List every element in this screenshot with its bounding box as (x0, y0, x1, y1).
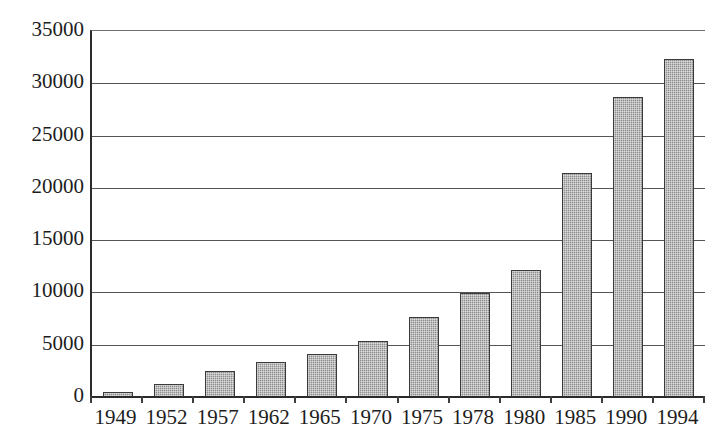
x-tick (294, 396, 296, 403)
y-tick-label: 25000 (0, 124, 84, 145)
y-tick-label: 30000 (0, 71, 84, 92)
x-tick-label: 1949 (90, 404, 141, 430)
bar (511, 270, 541, 397)
y-tick-label: 20000 (0, 176, 84, 197)
y-axis: 05000100001500020000250003000035000 (0, 0, 84, 444)
x-tick-label: 1965 (294, 404, 345, 430)
x-tick-label: 1970 (345, 404, 396, 430)
x-tick-label: 1957 (192, 404, 243, 430)
x-tick (141, 396, 143, 403)
x-tick (703, 396, 705, 403)
x-tick-label: 1994 (652, 404, 703, 430)
bar-chart: 05000100001500020000250003000035000 1949… (0, 0, 728, 444)
x-axis: 1949195219571962196519701975197819801985… (90, 404, 704, 444)
bar (409, 317, 439, 397)
y-tick-label: 35000 (0, 19, 84, 40)
bar (562, 173, 592, 397)
x-tick-label: 1985 (550, 404, 601, 430)
x-tick (243, 396, 245, 403)
bar (205, 371, 235, 397)
bar (613, 97, 643, 397)
bar (256, 362, 286, 397)
y-tick-label: 5000 (0, 333, 84, 354)
bar (664, 59, 694, 397)
x-tick-label: 1962 (243, 404, 294, 430)
x-tick-label: 1990 (601, 404, 652, 430)
x-tick (448, 396, 450, 403)
bars-layer (92, 31, 705, 397)
x-tick (397, 396, 399, 403)
x-tick (601, 396, 603, 403)
x-tick (499, 396, 501, 403)
x-axis-ticks (90, 396, 704, 404)
y-tick-label: 0 (0, 385, 84, 406)
x-tick (90, 396, 92, 403)
bar (307, 354, 337, 397)
y-tick-label: 15000 (0, 228, 84, 249)
x-tick-label: 1980 (499, 404, 550, 430)
x-tick-label: 1978 (448, 404, 499, 430)
x-tick-label: 1975 (397, 404, 448, 430)
x-tick (652, 396, 654, 403)
x-tick (192, 396, 194, 403)
bar (460, 293, 490, 397)
x-tick (345, 396, 347, 403)
x-tick-label: 1952 (141, 404, 192, 430)
x-tick (550, 396, 552, 403)
y-tick-label: 10000 (0, 280, 84, 301)
plot-area (90, 30, 705, 397)
bar (358, 341, 388, 397)
